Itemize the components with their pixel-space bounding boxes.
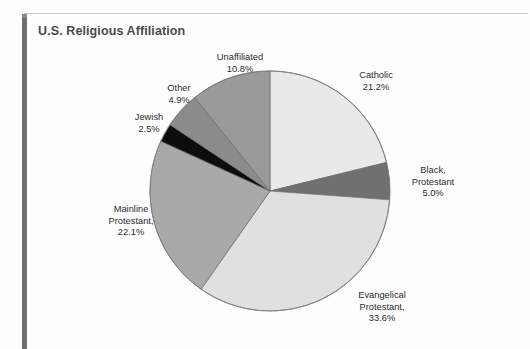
slice-label-black-protestant-name1: Black, xyxy=(390,165,476,177)
slice-label-other-value: 4.9% xyxy=(148,95,210,107)
slice-label-catholic-value: 21.2% xyxy=(336,82,416,94)
slice-label-unaffiliated: Unaffiliated 10.8% xyxy=(192,52,288,75)
slice-label-evangelical-protestant-value: 33.6% xyxy=(336,313,428,325)
slice-label-black-protestant-value: 5.0% xyxy=(390,188,476,200)
slice-label-other: Other 4.9% xyxy=(148,83,210,106)
slice-label-jewish-value: 2.5% xyxy=(118,124,180,136)
slice-label-evangelical-protestant: Evangelical Protestant, 33.6% xyxy=(336,290,428,325)
slice-label-jewish: Jewish 2.5% xyxy=(118,112,180,135)
pie-slice-group xyxy=(150,71,390,311)
pie-chart: Unaffiliated 10.8% Other 4.9% Jewish 2.5… xyxy=(0,0,530,349)
slice-label-catholic: Catholic 21.2% xyxy=(336,70,416,93)
slice-label-unaffiliated-name: Unaffiliated xyxy=(192,52,288,64)
slice-label-jewish-name: Jewish xyxy=(118,112,180,124)
slice-label-mainline-protestant-value: 22.1% xyxy=(88,227,174,239)
slice-label-unaffiliated-value: 10.8% xyxy=(192,64,288,76)
slice-label-mainline-protestant-name2: Protestant, xyxy=(88,216,174,228)
slice-label-mainline-protestant-name1: Mainline xyxy=(88,204,174,216)
slice-label-evangelical-protestant-name2: Protestant, xyxy=(336,302,428,314)
slice-label-black-protestant-name2: Protestant xyxy=(390,177,476,189)
slice-label-black-protestant: Black, Protestant 5.0% xyxy=(390,165,476,200)
figure-page: U.S. Religious Affiliation Unaffiliated … xyxy=(0,0,530,349)
slice-label-mainline-protestant: Mainline Protestant, 22.1% xyxy=(88,204,174,239)
slice-label-evangelical-protestant-name1: Evangelical xyxy=(336,290,428,302)
slice-label-other-name: Other xyxy=(148,83,210,95)
slice-label-catholic-name: Catholic xyxy=(336,70,416,82)
